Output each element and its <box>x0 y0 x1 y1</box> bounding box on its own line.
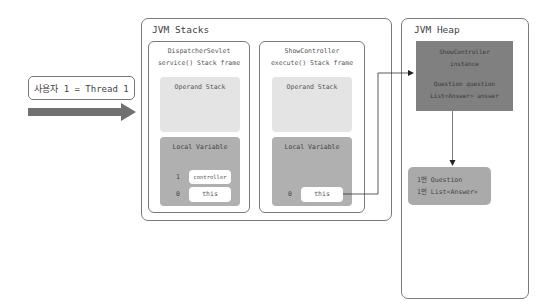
this-reference-line <box>343 73 408 194</box>
arrowhead-icon <box>450 160 456 166</box>
arrowhead-icon <box>408 70 414 76</box>
reference-arrows <box>0 0 552 301</box>
